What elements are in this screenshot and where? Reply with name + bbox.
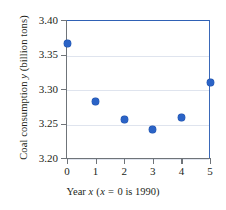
data-point-3 bbox=[149, 126, 156, 133]
x-tick-mark-4 bbox=[181, 158, 182, 164]
gridline-3.30 bbox=[67, 90, 209, 91]
data-point-4 bbox=[178, 114, 185, 121]
x-tick-mark-2 bbox=[124, 158, 125, 164]
x-tick-mark-0 bbox=[67, 158, 68, 164]
x-tick-mark-5 bbox=[210, 158, 211, 164]
y-tick-label-3.30: 3.30 bbox=[22, 84, 58, 95]
x-tick-label-4: 4 bbox=[171, 166, 191, 177]
x-tick-label-1: 1 bbox=[86, 166, 106, 177]
x-axis-title-prefix: Year bbox=[66, 186, 88, 197]
y-tick-label-3.35: 3.35 bbox=[22, 49, 58, 60]
x-tick-label-5: 5 bbox=[200, 166, 220, 177]
y-tick-label-3.40: 3.40 bbox=[22, 15, 58, 26]
data-point-0 bbox=[64, 40, 71, 47]
x-axis-title-equals: = bbox=[105, 186, 118, 197]
plot-area bbox=[67, 20, 210, 158]
gridline-3.20 bbox=[67, 159, 209, 160]
x-tick-mark-3 bbox=[153, 158, 154, 164]
y-tick-label-3.25: 3.25 bbox=[22, 118, 58, 129]
x-tick-mark-1 bbox=[96, 158, 97, 164]
gridline-3.25 bbox=[67, 125, 209, 126]
gridline-3.35 bbox=[67, 56, 209, 57]
x-axis-title: Year x (x = 0 is 1990) bbox=[0, 186, 226, 197]
x-axis-title-tail: 0 is 1990) bbox=[118, 186, 160, 197]
y-axis-title-variable: y bbox=[18, 74, 29, 79]
scatter-chart: Coal consumption y (billion tons) 3.40 3… bbox=[0, 0, 226, 210]
data-point-1 bbox=[92, 98, 99, 105]
data-point-2 bbox=[121, 116, 128, 123]
data-point-5 bbox=[207, 79, 214, 86]
x-tick-label-0: 0 bbox=[57, 166, 77, 177]
x-tick-label-2: 2 bbox=[114, 166, 134, 177]
y-tick-label-3.20: 3.20 bbox=[22, 153, 58, 164]
x-tick-label-3: 3 bbox=[143, 166, 163, 177]
